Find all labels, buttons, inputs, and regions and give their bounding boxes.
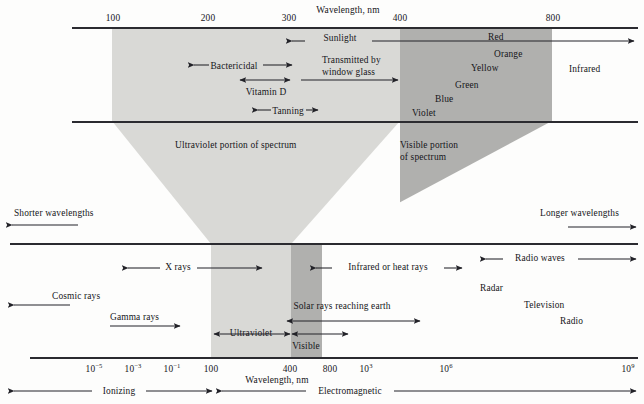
spectrum-diagram: Wavelength, nm 100 200 300 400 800 Sunli… xyxy=(0,0,644,404)
sunlight-label: Sunlight xyxy=(324,33,357,44)
top-tick-800: 800 xyxy=(546,13,561,23)
x-rays-label: X rays xyxy=(165,262,191,273)
bottom-tick-7: 103 xyxy=(359,362,372,374)
bottom-tick-9: 109 xyxy=(621,362,634,374)
vitamin-d-label: Vitamin D xyxy=(246,87,287,98)
uv-band-lower xyxy=(211,244,291,358)
top-axis-rule xyxy=(72,27,638,29)
ultraviolet-lower-label: Ultraviolet xyxy=(230,328,272,339)
bottom-tick-1: 10−5 xyxy=(86,362,103,374)
solar-rays-label: Solar rays reaching earth xyxy=(293,301,390,312)
bottom-tick-4: 100 xyxy=(204,362,219,374)
top-tick-400: 400 xyxy=(393,13,408,23)
top-tick-300: 300 xyxy=(282,13,297,23)
radio-label: Radio xyxy=(560,316,583,327)
top-axis-title: Wavelength, nm xyxy=(316,5,379,16)
bottom-tick-6: 800 xyxy=(323,362,338,374)
top-tick-100: 100 xyxy=(106,13,121,23)
bottom-axis-title: Wavelength, nm xyxy=(245,375,308,386)
radar-label: Radar xyxy=(480,283,503,294)
uv-portion-label: Ultraviolet portion of spectrum xyxy=(175,140,297,151)
bottom-tick-8: 106 xyxy=(439,362,452,374)
bottom-tick-5: 400 xyxy=(283,362,298,374)
color-green: Green xyxy=(455,80,479,91)
color-orange: Orange xyxy=(494,49,523,60)
infrared-label: Infrared xyxy=(569,64,600,75)
gamma-rays-label: Gamma rays xyxy=(110,312,159,323)
television-label: Television xyxy=(524,300,564,311)
middle-axis-rule xyxy=(10,243,638,245)
bottom-tick-2: 10−3 xyxy=(125,362,142,374)
visible-portion-label: Visible portion of spectrum xyxy=(400,140,462,163)
top-tick-200: 200 xyxy=(201,13,216,23)
shorter-wavelengths-label: Shorter wavelengths xyxy=(14,208,94,219)
color-blue: Blue xyxy=(435,94,453,105)
transmitted-by-window-glass-label: Transmitted by window glass xyxy=(322,55,396,78)
ionizing-label: Ionizing xyxy=(103,386,135,397)
longer-wavelengths-label: Longer wavelengths xyxy=(540,208,619,219)
color-red: Red xyxy=(488,32,504,43)
color-yellow: Yellow xyxy=(471,63,499,74)
bottom-tick-3: 10−1 xyxy=(164,362,181,374)
electromagnetic-label: Electromagnetic xyxy=(318,386,382,397)
radio-waves-label: Radio waves xyxy=(515,253,565,264)
cosmic-rays-label: Cosmic rays xyxy=(52,291,100,302)
top-band-bottom-rule xyxy=(72,121,638,123)
visible-lower-label: Visible xyxy=(292,341,320,352)
infrared-heat-rays-label: Infrared or heat rays xyxy=(348,262,427,273)
tanning-label: Tanning xyxy=(272,106,304,117)
color-violet: Violet xyxy=(412,108,436,119)
bactericidal-label: Bactericidal xyxy=(210,61,257,72)
bottom-axis-rule xyxy=(30,357,638,359)
